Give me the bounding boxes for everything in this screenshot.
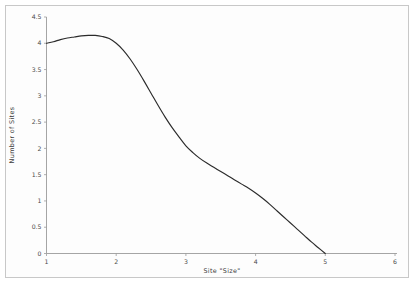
chart-screenshot: 00.511.522.533.544.5 123456 Site "Size" … xyxy=(0,0,416,284)
x-tick-label: 6 xyxy=(393,258,397,265)
y-tick-label: 3 xyxy=(38,92,42,99)
y-tick-label: 0.5 xyxy=(32,223,42,230)
x-tick-label: 1 xyxy=(45,258,49,265)
y-tick-label: 2 xyxy=(38,145,42,152)
y-tick-label: 0 xyxy=(38,250,42,257)
x-tick-label: 3 xyxy=(184,258,188,265)
y-tick-label: 3.5 xyxy=(32,66,42,73)
x-axis-title: Site "Size" xyxy=(203,267,240,275)
chart-plot-area: 00.511.522.533.544.5 123456 Site "Size" … xyxy=(0,0,416,284)
y-tick-label: 4.5 xyxy=(32,13,42,20)
x-axis-ticks: 123456 xyxy=(45,254,398,265)
data-series-line xyxy=(47,35,326,253)
y-axis-ticks: 00.511.522.533.544.5 xyxy=(32,13,47,257)
x-tick-label: 4 xyxy=(254,258,258,265)
x-tick-label: 2 xyxy=(114,258,118,265)
y-tick-label: 2.5 xyxy=(32,118,42,125)
y-tick-label: 1 xyxy=(38,197,42,204)
y-axis-title: Number of Sites xyxy=(8,106,16,163)
y-tick-label: 1.5 xyxy=(32,171,42,178)
x-tick-label: 5 xyxy=(323,258,327,265)
y-tick-label: 4 xyxy=(38,39,42,46)
